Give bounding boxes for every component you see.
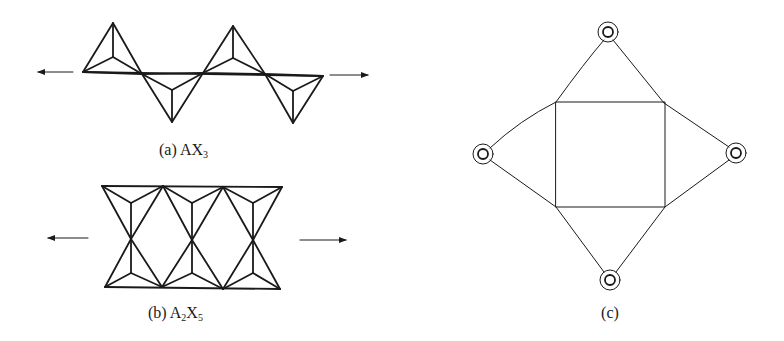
panel-c-square-figure: (c)	[473, 22, 746, 322]
triangle-left	[490, 102, 556, 207]
panel-b-double-chain: (b) A2X5	[48, 186, 346, 323]
vertex-circle-bottom	[600, 270, 620, 290]
triangle-bottom	[556, 207, 665, 272]
figure-canvas: (a) AX3	[0, 0, 784, 341]
double-tetrahedron-unit-3	[223, 187, 282, 289]
panel-a-chain: (a) AX3	[38, 23, 368, 160]
vertex-circle-top	[598, 22, 618, 42]
triangle-right	[664, 103, 729, 207]
central-square	[556, 102, 665, 207]
tetrahedron-down-1	[142, 73, 203, 122]
panel-b-label: (b) A2X5	[148, 304, 203, 323]
double-tetrahedron-unit-2	[162, 186, 223, 289]
tetrahedron-up-2	[203, 26, 265, 74]
bottom-edge-line	[105, 287, 280, 289]
top-edge-line	[102, 186, 282, 187]
double-tetrahedron-unit-1	[102, 186, 163, 287]
panel-c-label: (c)	[601, 304, 619, 322]
tetrahedron-down-2	[265, 74, 323, 123]
vertex-circle-right	[726, 143, 746, 163]
vertex-circle-left	[473, 144, 493, 164]
panel-a-label: (a) AX3	[159, 141, 208, 160]
triangle-top	[556, 40, 664, 103]
tetrahedron-up-1	[83, 23, 142, 74]
